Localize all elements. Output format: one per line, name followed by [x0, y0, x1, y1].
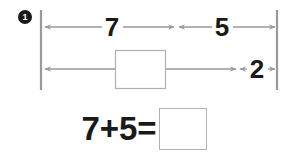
top-left-segment-label: 7: [105, 12, 119, 42]
top-right-segment-label: 5: [215, 12, 229, 42]
tape-diagram: 7 5 2: [0, 0, 288, 100]
bottom-gap-label: 2: [250, 54, 264, 84]
answer-input-box[interactable]: [159, 108, 207, 150]
equation-row: 7+5=: [0, 100, 288, 157]
equation-expression: 7+5=: [81, 112, 156, 145]
worksheet-problem: 1 7 5 2: [0, 0, 288, 157]
unknown-value-box[interactable]: [116, 51, 166, 89]
